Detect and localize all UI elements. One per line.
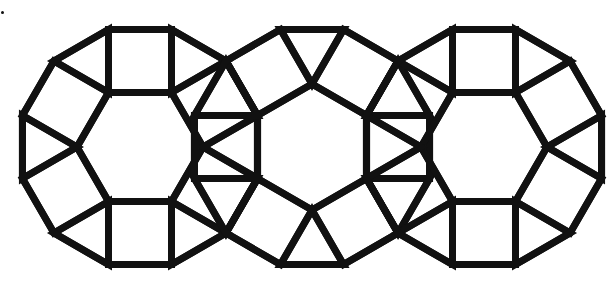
right-rosette-triangle — [516, 29, 571, 92]
middle-rosette-square — [226, 179, 312, 265]
left-rosette-triangle — [22, 116, 77, 179]
left-rosette-triangle — [54, 29, 109, 92]
right-rosette-triangle — [366, 116, 421, 179]
left-rosette-square — [109, 202, 172, 265]
left-rosette-triangle — [54, 202, 109, 265]
right-rosette-square — [453, 202, 516, 265]
left-rosette-square — [109, 29, 172, 92]
middle-rosette-square — [226, 29, 312, 115]
left-rosette-square — [22, 61, 108, 147]
left-rosette-square — [22, 147, 108, 233]
middle-rosette-triangle — [281, 210, 344, 265]
left-rosette-triangle — [203, 116, 258, 179]
middle-rosette-triangle — [194, 61, 257, 116]
middle-rosette-triangle — [281, 29, 344, 84]
right-rosette-square — [453, 29, 516, 92]
middle-rosette-triangle — [367, 179, 430, 234]
right-rosette-triangle — [547, 116, 602, 179]
middle-rosette-square — [312, 29, 398, 115]
right-rosette-triangle — [516, 202, 571, 265]
left-rosette-triangle — [172, 29, 227, 92]
right-rosette-square — [516, 61, 602, 147]
right-rosette-square — [516, 147, 602, 233]
left-rosette-triangle — [172, 202, 227, 265]
rosettes-group — [22, 29, 601, 264]
middle-rosette-triangle — [367, 61, 430, 116]
tessellation-figure — [0, 0, 613, 285]
middle-rosette-triangle — [194, 179, 257, 234]
right-rosette-triangle — [398, 29, 453, 92]
middle-rosette-square — [312, 179, 398, 265]
right-rosette-triangle — [398, 202, 453, 265]
